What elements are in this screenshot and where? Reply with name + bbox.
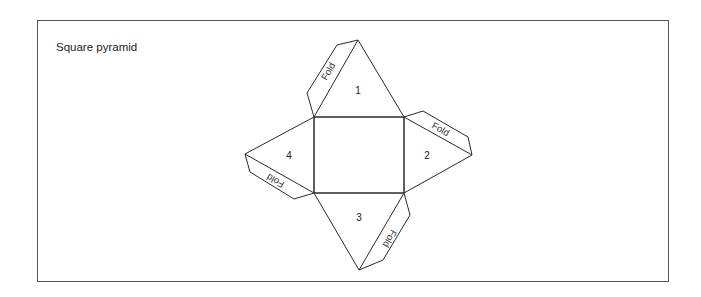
fold-tab-bottom [359,193,410,270]
fold-label-left: Fold [265,172,286,191]
fold-tab-top [307,40,358,117]
face-label-1: 1 [355,85,361,96]
face-label-3: 3 [356,212,362,223]
pyramid-net: 1 2 3 4 Fold Fold Fold Fold [0,0,701,297]
face-label-4: 4 [286,150,292,161]
fold-label-bottom: Fold [381,228,400,250]
fold-tab-left [245,154,314,199]
fold-label-top: Fold [319,60,338,82]
base-square [314,117,404,193]
fold-label-right: Fold [430,120,451,139]
face-label-2: 2 [424,150,430,161]
